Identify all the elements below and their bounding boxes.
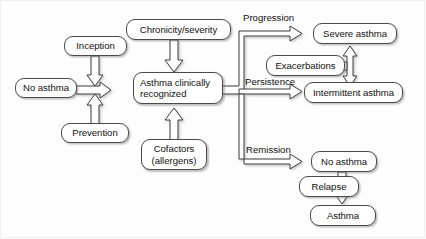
node-label: Prevention — [72, 127, 117, 138]
node-no-asthma-right[interactable]: No asthma — [311, 151, 377, 172]
node-label: No asthma — [23, 82, 69, 93]
node-asthma-final[interactable]: Asthma — [310, 205, 376, 226]
node-label: Exacerbations — [275, 60, 335, 71]
node-label: Severe asthma — [323, 28, 387, 39]
node-exacerbations[interactable]: Exacerbations — [266, 55, 345, 76]
node-label-line-2: (allergens) — [152, 155, 197, 166]
node-intermittent-asthma[interactable]: Intermittent asthma — [304, 82, 403, 103]
node-label: No asthma — [321, 156, 367, 167]
node-no-asthma-left[interactable]: No asthma — [15, 78, 77, 98]
arrow-remission — [239, 94, 302, 169]
node-label-line-2: recognized — [140, 88, 186, 99]
node-chronicity-severity[interactable]: Chronicity/severity — [126, 19, 231, 40]
arrow-inception-down — [87, 56, 103, 86]
node-label: Intermittent asthma — [313, 87, 394, 98]
node-prevention[interactable]: Prevention — [61, 123, 129, 143]
edge-label-persistence: Persistence — [245, 76, 295, 87]
node-label: Asthma — [327, 210, 359, 221]
node-label-line-1: Asthma clinically — [140, 77, 210, 88]
arrow-prevention-up — [87, 94, 103, 124]
edge-label-progression: Progression — [243, 12, 294, 23]
arrow-chronicity-down — [165, 40, 183, 72]
node-label: Relapse — [312, 181, 347, 192]
node-relapse[interactable]: Relapse — [299, 176, 359, 197]
edge-label-remission: Remission — [246, 144, 291, 155]
node-severe-asthma[interactable]: Severe asthma — [313, 23, 397, 44]
node-label: Chronicity/severity — [140, 24, 217, 35]
node-asthma-clinically-recognized[interactable]: Asthma clinically recognized — [133, 72, 223, 104]
arrow-cofactors-up — [165, 108, 183, 140]
node-inception[interactable]: Inception — [64, 36, 127, 56]
node-label: Inception — [76, 40, 115, 51]
node-cofactors-allergens[interactable]: Cofactors (allergens) — [141, 139, 207, 170]
node-label-line-1: Cofactors — [154, 143, 195, 154]
diagram-canvas: No asthma Inception Prevention Chronicit… — [0, 0, 426, 239]
